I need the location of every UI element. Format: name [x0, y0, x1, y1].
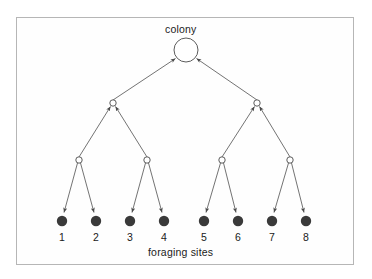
edge-L2c-S6	[224, 163, 237, 213]
site-label-5: 5	[196, 231, 212, 243]
colony-label: colony	[165, 23, 197, 35]
edge-L2b-L1a	[116, 107, 148, 158]
node-L2b[interactable]	[144, 157, 150, 163]
node-L2d[interactable]	[287, 157, 293, 163]
node-site-4[interactable]	[159, 216, 169, 226]
site-label-8: 8	[298, 231, 314, 243]
edges-layer	[64, 59, 304, 213]
node-site-1[interactable]	[57, 216, 67, 226]
figure-canvas: colony 1 2 3 4 5 6 7 8 foraging sites	[0, 0, 372, 279]
edge-L2d-S8	[292, 163, 305, 213]
foraging-sites-label: foraging sites	[148, 246, 213, 258]
edge-L2d-S7	[274, 163, 289, 213]
node-colony[interactable]	[174, 38, 198, 62]
edge-L2c-L1b	[222, 107, 255, 158]
edge-L1b-colony	[197, 59, 258, 101]
node-site-7[interactable]	[267, 216, 277, 226]
node-site-8[interactable]	[301, 216, 311, 226]
site-label-3: 3	[122, 231, 138, 243]
node-L1a[interactable]	[110, 100, 116, 106]
node-site-2[interactable]	[91, 216, 101, 226]
node-site-6[interactable]	[233, 216, 243, 226]
edge-L2c-S5	[206, 163, 221, 213]
site-label-7: 7	[264, 231, 280, 243]
edge-L2b-S3	[132, 163, 146, 213]
edge-L2a-S2	[81, 163, 95, 213]
node-L2a[interactable]	[76, 157, 82, 163]
site-label-6: 6	[230, 231, 246, 243]
site-label-2: 2	[88, 231, 104, 243]
edge-L2d-L1b	[260, 107, 291, 158]
node-site-5[interactable]	[199, 216, 209, 226]
edge-L2a-L1a	[79, 107, 111, 158]
site-label-4: 4	[156, 231, 172, 243]
edge-L2b-S4	[149, 163, 163, 213]
node-site-3[interactable]	[125, 216, 135, 226]
site-label-1: 1	[54, 231, 70, 243]
edge-L1a-colony	[113, 59, 176, 101]
edge-L2a-S1	[64, 163, 78, 213]
node-L1b[interactable]	[254, 100, 260, 106]
node-L2c[interactable]	[219, 157, 225, 163]
